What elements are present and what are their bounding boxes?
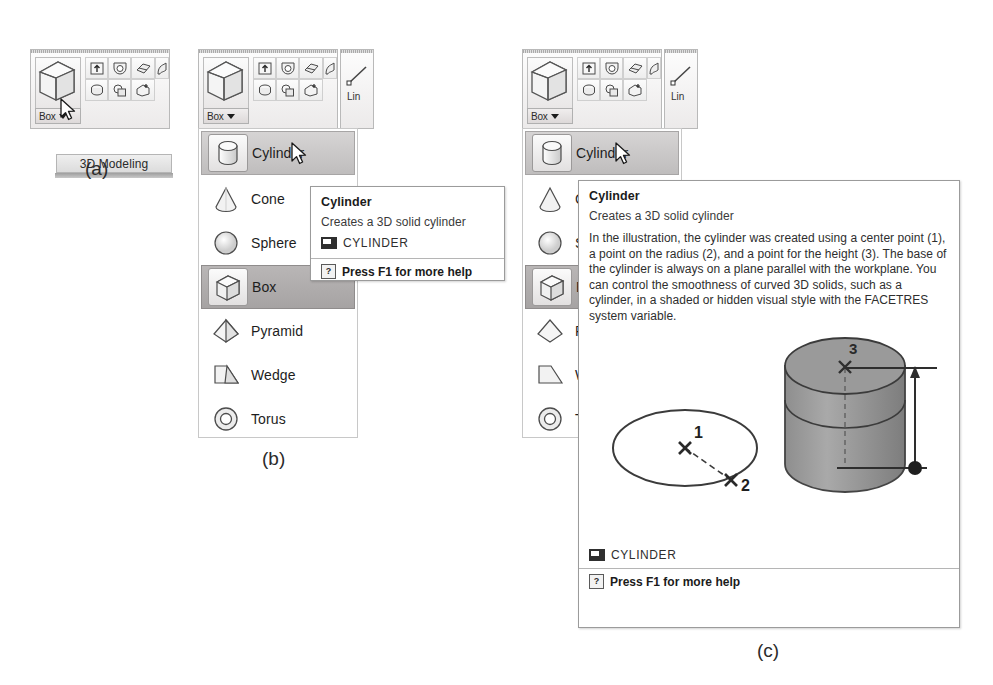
revolve-icon-button[interactable] xyxy=(600,57,623,79)
chevron-down-icon xyxy=(551,114,559,119)
ribbon-bottom-shadow-a xyxy=(55,173,173,178)
slice-icon-button[interactable] xyxy=(131,79,155,101)
sweep-icon xyxy=(648,61,660,76)
revolve-icon-button[interactable] xyxy=(276,57,299,79)
tooltip-command: CYLINDER xyxy=(343,236,408,250)
box-dropdown-button-c[interactable]: Box xyxy=(527,108,573,124)
mouse-cursor-b xyxy=(291,142,311,168)
box-icon xyxy=(532,268,572,306)
pyramid-icon xyxy=(205,311,247,351)
union-icon-button[interactable] xyxy=(600,79,623,101)
cylinder-icon xyxy=(532,134,572,172)
caption-c: (c) xyxy=(757,640,779,662)
ribbon-top-edge-c xyxy=(523,50,661,53)
tooltip-title: Cylinder xyxy=(589,189,949,203)
box-dropdown-label: Box xyxy=(207,111,224,122)
revolve-icon xyxy=(604,61,620,76)
panel-title-3d-modeling-a: 3D Modeling xyxy=(56,154,172,173)
tooltip-cylinder-small: Cylinder Creates a 3D solid cylinder CYL… xyxy=(310,186,505,281)
extrude-icon-button[interactable] xyxy=(253,57,276,79)
slice-icon xyxy=(627,83,644,98)
tooltip-subtitle: Creates a 3D solid cylinder xyxy=(321,215,494,229)
loft-icon-button[interactable] xyxy=(299,57,323,79)
tooltip-footer[interactable]: ? Press F1 for more help xyxy=(579,568,959,594)
adjacent-panel-label: Lin xyxy=(671,91,684,102)
ribbon-small-buttons-c xyxy=(577,57,661,101)
command-monitor-icon xyxy=(589,549,605,561)
box-dropdown-button-b[interactable]: Box xyxy=(203,108,249,124)
pyramid-icon xyxy=(529,311,571,351)
extrude-icon-button[interactable] xyxy=(85,57,108,79)
loft-icon xyxy=(627,61,644,76)
tooltip-cylinder-large: Cylinder Creates a 3D solid cylinder In … xyxy=(578,180,960,628)
menu-item-label: Torus xyxy=(251,411,286,427)
chevron-down-icon xyxy=(227,114,235,119)
sweep-icon-button[interactable] xyxy=(155,57,169,79)
ribbon-top-edge xyxy=(341,50,373,53)
loft-icon-button[interactable] xyxy=(131,57,155,79)
extrude-icon xyxy=(89,61,105,76)
wedge-icon xyxy=(205,355,247,395)
revolve-icon xyxy=(112,61,128,76)
extrude-icon xyxy=(257,61,273,76)
revolve-icon xyxy=(280,61,296,76)
revolve-icon-button[interactable] xyxy=(108,57,131,79)
menu-item-label: Pyramid xyxy=(251,323,303,339)
menu-item-cylinder[interactable]: Cylinder xyxy=(201,131,355,175)
ribbon-top-edge xyxy=(665,50,697,53)
menu-item-label: Sphere xyxy=(251,235,297,251)
loft-icon xyxy=(303,61,320,76)
point-label-3: 3 xyxy=(849,340,857,357)
adjacent-panel-b: Lin xyxy=(340,49,374,129)
tooltip-help-text: Press F1 for more help xyxy=(610,575,740,589)
presspull-icon-button[interactable] xyxy=(85,79,108,101)
slice-icon xyxy=(135,83,152,98)
sweep-icon-button[interactable] xyxy=(323,57,337,79)
question-mark-icon: ? xyxy=(589,574,604,589)
union-icon xyxy=(112,83,128,98)
extrude-icon-button[interactable] xyxy=(577,57,600,79)
tooltip-paragraph: In the illustration, the cylinder was cr… xyxy=(589,231,949,324)
menu-item-cylinder[interactable]: Cylinder xyxy=(525,131,679,175)
caption-a: (a) xyxy=(85,158,108,180)
tooltip-command: CYLINDER xyxy=(611,548,676,562)
cone-icon xyxy=(529,179,571,219)
box-dropdown-label: Box xyxy=(39,111,56,122)
union-icon-button[interactable] xyxy=(276,79,299,101)
caption-b: (b) xyxy=(262,448,285,470)
slice-icon-button[interactable] xyxy=(299,79,323,101)
question-mark-icon: ? xyxy=(321,264,336,279)
command-monitor-icon xyxy=(321,237,337,249)
sweep-icon xyxy=(156,61,168,76)
presspull-icon xyxy=(257,83,273,98)
menu-item-wedge[interactable]: Wedge xyxy=(199,353,357,397)
ribbon-panel-b: Box xyxy=(198,49,338,129)
menu-item-label: Cone xyxy=(251,191,285,207)
box-big-button-b[interactable] xyxy=(203,57,249,109)
sweep-icon-button[interactable] xyxy=(647,57,661,79)
presspull-icon-button[interactable] xyxy=(253,79,276,101)
loft-icon xyxy=(135,61,152,76)
union-icon-button[interactable] xyxy=(108,79,131,101)
slice-icon-button[interactable] xyxy=(623,79,647,101)
line-tool-icon xyxy=(345,62,371,88)
sweep-icon xyxy=(324,61,336,76)
menu-item-pyramid[interactable]: Pyramid xyxy=(199,309,357,353)
union-icon xyxy=(604,83,620,98)
tooltip-footer[interactable]: ? Press F1 for more help xyxy=(311,258,504,284)
cylinder-icon xyxy=(208,134,248,172)
cylinder-construction-illustration: 1 2 3 xyxy=(597,328,941,538)
point-label-2: 2 xyxy=(741,477,750,494)
slice-icon xyxy=(303,83,320,98)
presspull-icon xyxy=(89,83,105,98)
box-dropdown-label: Box xyxy=(531,111,548,122)
loft-icon-button[interactable] xyxy=(623,57,647,79)
mouse-cursor-c xyxy=(615,142,635,168)
presspull-icon-button[interactable] xyxy=(577,79,600,101)
box-big-button-c[interactable] xyxy=(527,57,573,109)
sphere-icon xyxy=(529,223,571,263)
tooltip-subtitle: Creates a 3D solid cylinder xyxy=(589,209,949,223)
sphere-icon xyxy=(205,223,247,263)
presspull-icon xyxy=(581,83,597,98)
menu-item-torus[interactable]: Torus xyxy=(199,397,357,441)
